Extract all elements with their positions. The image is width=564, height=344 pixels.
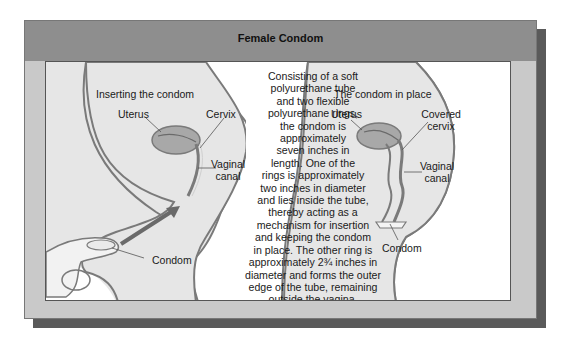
left-uterus-label: Uterus bbox=[118, 108, 149, 120]
right-vaginal-canal-label: Vaginal canal bbox=[416, 160, 458, 184]
description-text: Consisting of a soft polyurethane tube a… bbox=[214, 70, 412, 301]
figure-panel: Inserting the condom Uterus Cervix Vagin… bbox=[45, 61, 511, 301]
left-panel-heading: Inserting the condom bbox=[96, 88, 194, 100]
figure-frame: Female Condom bbox=[24, 20, 537, 319]
right-uterus-label: Uterus bbox=[331, 108, 362, 120]
right-condom-label: Condom bbox=[382, 242, 422, 254]
figure-title: Female Condom bbox=[25, 32, 536, 44]
right-panel-heading: The condom in place bbox=[334, 88, 431, 100]
right-covered-cervix-label: Covered cervix bbox=[418, 108, 464, 132]
left-condom-label: Condom bbox=[152, 254, 192, 266]
